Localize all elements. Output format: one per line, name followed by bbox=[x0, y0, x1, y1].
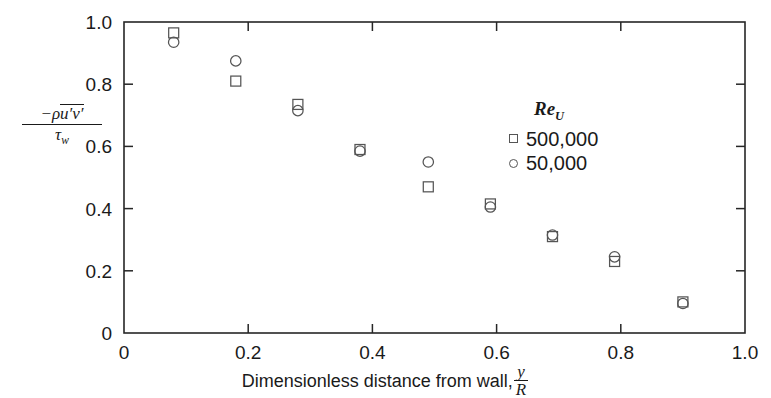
plot-area: 00.20.40.60.81.000.20.40.60.81.0 bbox=[0, 0, 771, 398]
legend-title: ReU bbox=[534, 98, 598, 124]
axis-tick-labels: 00.20.40.60.81.000.20.40.60.81.0 bbox=[86, 12, 759, 363]
data-point-circle bbox=[231, 56, 241, 66]
chart-figure: 00.20.40.60.81.000.20.40.60.81.0 −ρu′v′ … bbox=[0, 0, 771, 398]
y-fluct-overbar: u′v′ bbox=[60, 104, 83, 122]
legend-title-subscript: U bbox=[555, 109, 564, 123]
legend-label-50000: 50,000 bbox=[526, 151, 587, 175]
circle-icon bbox=[500, 159, 526, 168]
x-fraction-numerator: y bbox=[515, 363, 527, 380]
x-tick-label: 1.0 bbox=[732, 342, 758, 363]
axis-ticks bbox=[124, 22, 745, 333]
y-axis-denominator: τw bbox=[16, 126, 108, 147]
x-tick-label: 0.8 bbox=[608, 342, 634, 363]
x-axis-label-text: Dimensionless distance from wall, bbox=[242, 371, 513, 392]
data-points bbox=[168, 28, 688, 309]
data-point-circle bbox=[485, 202, 495, 212]
data-point-square bbox=[231, 76, 241, 86]
y-tick-label: 0 bbox=[101, 323, 112, 344]
data-point-circle bbox=[168, 37, 178, 47]
y-tick-label: 0.2 bbox=[86, 261, 112, 282]
x-tick-label: 0.6 bbox=[483, 342, 509, 363]
data-point-circle bbox=[423, 157, 433, 167]
y-fraction-bar bbox=[22, 124, 102, 125]
y-tick-label: 1.0 bbox=[86, 12, 112, 33]
axis-frame bbox=[124, 22, 745, 333]
x-tick-label: 0 bbox=[119, 342, 130, 363]
data-point-square bbox=[293, 99, 303, 109]
x-tick-label: 0.4 bbox=[359, 342, 386, 363]
y-minus-rho: −ρ bbox=[40, 104, 60, 123]
y-axis-numerator: −ρu′v′ bbox=[16, 104, 108, 123]
y-tau-subscript: w bbox=[61, 135, 69, 148]
square-icon bbox=[500, 134, 526, 143]
x-fraction-denominator: R bbox=[514, 381, 528, 398]
x-axis-fraction: y R bbox=[514, 363, 528, 398]
legend-title-re: Re bbox=[534, 98, 555, 119]
y-tick-label: 0.4 bbox=[86, 199, 113, 220]
legend-label-500000: 500,000 bbox=[526, 127, 598, 151]
y-axis-label: −ρu′v′ τw bbox=[16, 104, 108, 148]
legend-item-50000: 50,000 bbox=[500, 151, 598, 175]
data-point-square bbox=[169, 28, 179, 38]
legend-item-500000: 500,000 bbox=[500, 127, 598, 151]
data-point-square bbox=[423, 182, 433, 192]
legend: ReU 500,000 50,000 bbox=[500, 98, 598, 176]
x-axis-label: Dimensionless distance from wall, y R bbox=[195, 364, 575, 398]
x-tick-label: 0.2 bbox=[235, 342, 261, 363]
y-tick-label: 0.8 bbox=[86, 74, 112, 95]
data-point-circle bbox=[293, 105, 303, 115]
